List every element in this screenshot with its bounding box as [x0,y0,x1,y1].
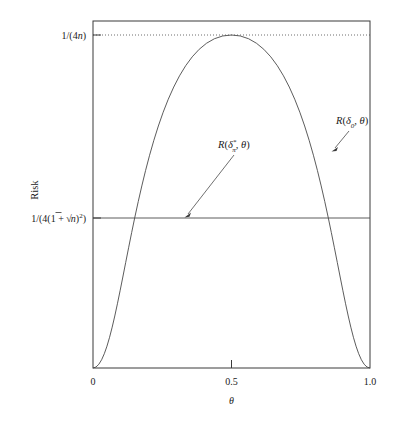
annotation-label-mle: R(δ0, θ) [335,115,369,130]
risk-curve-delta0 [93,35,370,368]
annotation-arrowhead-bayes-rule [185,213,192,218]
annotation-leader-mle [335,131,349,148]
xtick-label-0: 0 [91,376,96,387]
x-axis-title: θ [229,395,234,406]
figure-container: 1/(4n) 1/(4(1 + √n)2) Risk 0 0.5 1.0 θ R… [0,0,418,428]
risk-function-chart: 1/(4n) 1/(4(1 + √n)2) Risk 0 0.5 1.0 θ R… [0,0,418,428]
annotation-label-bayes-rule: R(δ*π, θ) [217,138,250,154]
xtick-label-half: 0.5 [225,376,238,387]
xtick-label-one: 1.0 [364,376,377,387]
plot-frame [93,21,370,368]
ytick-label-top: 1/(4n) [62,30,86,42]
y-axis-title: Risk [29,180,40,200]
annotation-leader-bayes-rule [188,155,234,214]
ytick-label-bottom: 1/(4(1 + √n)2) [31,212,86,225]
